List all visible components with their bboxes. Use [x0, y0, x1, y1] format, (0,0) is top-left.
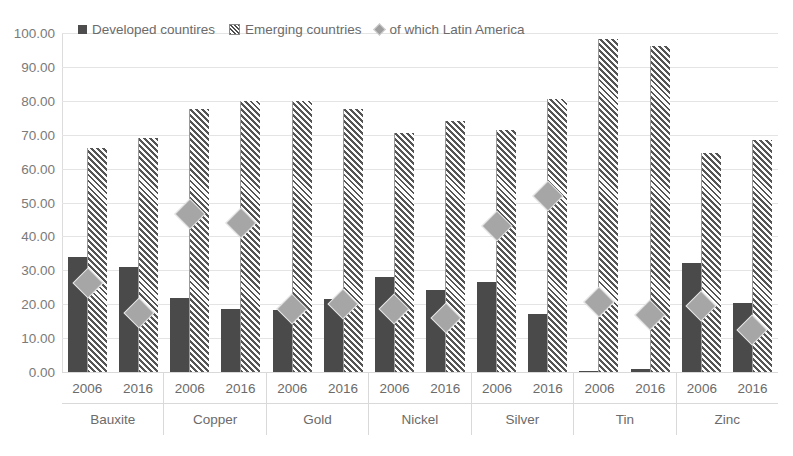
bar-slot — [522, 33, 573, 372]
bar-emerging[interactable] — [189, 109, 209, 372]
y-axis-tick-label: 100.00 — [14, 26, 55, 41]
bar-developed[interactable] — [477, 282, 496, 372]
bar-slot — [676, 33, 727, 372]
bar-emerging[interactable] — [394, 133, 414, 372]
bar-group-bauxite — [62, 33, 164, 372]
x-axis-category-label: Zinc — [677, 404, 778, 435]
bar-developed[interactable] — [375, 277, 394, 372]
x-axis-year-label: 2016 — [625, 373, 676, 403]
x-axis-year-label: 2006 — [62, 373, 113, 403]
plot-area: 100.0090.0080.0070.0060.0050.0040.0030.0… — [62, 33, 778, 372]
x-axis-year-label: 2016 — [420, 373, 471, 403]
x-axis-years: 20062016 — [677, 373, 778, 404]
x-axis-years: 20062016 — [267, 373, 368, 404]
bar-slot — [727, 33, 778, 372]
x-axis-category-label: Gold — [267, 404, 368, 435]
bar-pair — [221, 33, 261, 372]
x-axis-category-label: Nickel — [369, 404, 470, 435]
x-axis-year-label: 2016 — [113, 373, 164, 403]
y-axis-tick-label: 0.00 — [29, 365, 55, 380]
bar-slot — [164, 33, 215, 372]
x-axis-year-label: 2006 — [164, 373, 215, 403]
bar-slot — [267, 33, 318, 372]
diamond-marker-icon — [374, 23, 387, 36]
y-axis-tick-label: 50.00 — [21, 195, 55, 210]
bar-developed[interactable] — [528, 314, 547, 372]
bar-developed[interactable] — [170, 298, 189, 372]
bar-slot — [369, 33, 420, 372]
x-axis-category-label: Tin — [574, 404, 675, 435]
bar-slot — [420, 33, 471, 372]
x-axis-years: 20062016 — [369, 373, 470, 404]
legend-label-developed: Developed countires — [92, 22, 215, 37]
bar-slot — [113, 33, 164, 372]
y-axis-tick-label: 30.00 — [21, 263, 55, 278]
bar-slot — [62, 33, 113, 372]
x-axis-group-nickel: 20062016Nickel — [369, 373, 471, 435]
x-axis-year-label: 2016 — [727, 373, 778, 403]
y-axis-tick-label: 90.00 — [21, 59, 55, 74]
chart-legend: Developed countires Emerging countries o… — [78, 22, 524, 37]
y-axis-tick-label: 20.00 — [21, 297, 55, 312]
bar-pair — [323, 33, 363, 372]
x-axis-year-label: 2006 — [369, 373, 420, 403]
legend-item-emerging: Emerging countries — [229, 22, 361, 37]
bar-emerging[interactable] — [701, 153, 721, 372]
x-axis-years: 20062016 — [62, 373, 163, 404]
bar-emerging[interactable] — [547, 99, 567, 372]
x-axis-years: 20062016 — [164, 373, 265, 404]
bar-pair — [681, 33, 721, 372]
bar-pair — [119, 33, 159, 372]
bar-emerging[interactable] — [496, 130, 516, 372]
y-axis-tick-label: 80.00 — [21, 93, 55, 108]
legend-label-emerging: Emerging countries — [245, 22, 361, 37]
bar-chart: Developed countires Emerging countries o… — [0, 0, 793, 456]
x-axis-group-tin: 20062016Tin — [574, 373, 676, 435]
x-axis-group-copper: 20062016Copper — [164, 373, 266, 435]
x-axis-category-label: Copper — [164, 404, 265, 435]
x-axis-group-bauxite: 20062016Bauxite — [62, 373, 164, 435]
bar-emerging[interactable] — [598, 39, 618, 372]
bar-pair — [170, 33, 210, 372]
bar-group-gold — [267, 33, 369, 372]
bar-developed[interactable] — [579, 371, 598, 372]
bar-developed[interactable] — [221, 309, 240, 372]
bar-pair — [732, 33, 772, 372]
bar-group-copper — [164, 33, 266, 372]
x-axis-years: 20062016 — [472, 373, 573, 404]
x-axis-year-label: 2006 — [472, 373, 523, 403]
bar-pair — [477, 33, 517, 372]
bar-group-silver — [471, 33, 573, 372]
x-axis-year-label: 2006 — [574, 373, 625, 403]
bar-pair — [272, 33, 312, 372]
legend-item-developed: Developed countires — [78, 22, 215, 37]
y-axis-tick-label: 10.00 — [21, 331, 55, 346]
bar-emerging[interactable] — [292, 101, 312, 372]
x-axis-category-label: Bauxite — [62, 404, 163, 435]
x-axis-group-zinc: 20062016Zinc — [677, 373, 778, 435]
bar-developed[interactable] — [631, 369, 650, 372]
x-axis-group-gold: 20062016Gold — [267, 373, 369, 435]
bar-group-nickel — [369, 33, 471, 372]
bar-emerging[interactable] — [445, 121, 465, 372]
bar-emerging[interactable] — [240, 101, 260, 372]
x-axis-year-label: 2016 — [215, 373, 266, 403]
bar-pair — [528, 33, 568, 372]
x-axis-year-label: 2006 — [677, 373, 728, 403]
y-axis-tick-label: 60.00 — [21, 161, 55, 176]
bar-emerging[interactable] — [343, 109, 363, 372]
bar-group-zinc — [676, 33, 778, 372]
x-axis-year-label: 2006 — [267, 373, 318, 403]
bar-emerging[interactable] — [87, 148, 107, 372]
bar-developed[interactable] — [426, 290, 445, 372]
bar-pair — [68, 33, 108, 372]
bar-slot — [318, 33, 369, 372]
bar-slot — [471, 33, 522, 372]
x-axis-year-label: 2016 — [522, 373, 573, 403]
x-axis-group-silver: 20062016Silver — [472, 373, 574, 435]
bar-emerging[interactable] — [138, 138, 158, 372]
y-axis-tick-label: 40.00 — [21, 229, 55, 244]
x-axis-years: 20062016 — [574, 373, 675, 404]
filled-square-icon — [78, 25, 87, 34]
bar-group-tin — [573, 33, 675, 372]
